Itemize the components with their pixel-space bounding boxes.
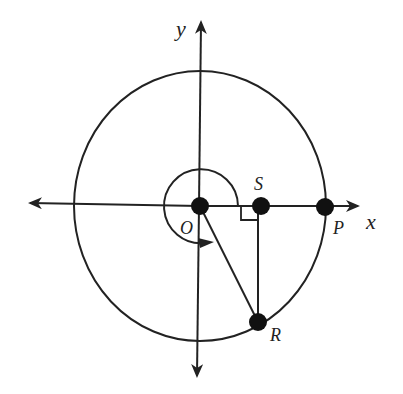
angle-arc-arrowhead-icon	[198, 238, 214, 248]
point-P	[316, 198, 334, 216]
label-R: R	[269, 325, 281, 345]
x-axis-negative	[30, 203, 200, 206]
label-y: y	[174, 16, 186, 41]
label-S: S	[254, 174, 263, 194]
label-P: P	[332, 218, 344, 238]
segment-OR	[200, 206, 258, 322]
y-axis-negative	[197, 206, 199, 376]
label-x: x	[365, 209, 376, 234]
point-R	[249, 313, 267, 331]
point-S	[252, 197, 270, 215]
y-axis	[199, 22, 201, 206]
point-O	[191, 197, 209, 215]
label-O: O	[180, 218, 193, 238]
unit-circle-diagram: y x O S P R	[0, 0, 403, 394]
